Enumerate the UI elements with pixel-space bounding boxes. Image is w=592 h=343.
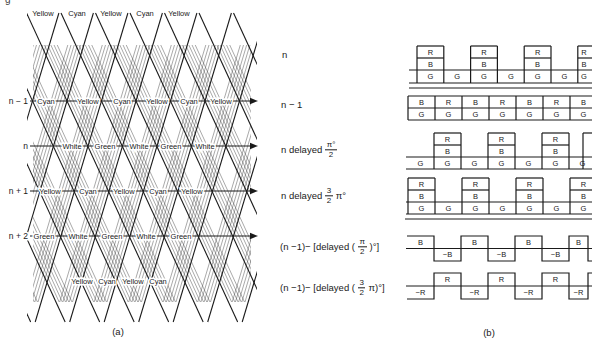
waveform-row: RBRBRBRBGGGGGGG	[409, 46, 592, 88]
svg-text:B: B	[419, 192, 424, 201]
svg-text:B: B	[419, 98, 424, 107]
svg-text:G: G	[553, 159, 559, 168]
svg-text:−R: −R	[416, 288, 426, 297]
svg-text:G: G	[473, 110, 479, 119]
svg-text:R: R	[581, 48, 587, 57]
svg-text:B: B	[553, 147, 558, 156]
signal-label-n-delayed-half-pi: n delayed π°2	[281, 140, 340, 159]
svg-text:G: G	[472, 159, 478, 168]
svg-text:Cyan: Cyan	[180, 97, 198, 106]
svg-text:R: R	[535, 48, 541, 57]
svg-text:B: B	[581, 60, 586, 69]
svg-text:G: G	[561, 72, 567, 81]
svg-text:Yellow: Yellow	[71, 277, 93, 286]
svg-text:R: R	[473, 180, 479, 189]
waveform-row: −RR−RR−RR−R	[406, 273, 592, 299]
svg-text:Yellow: Yellow	[210, 97, 232, 106]
svg-text:White: White	[129, 142, 148, 151]
lattice-lines	[0, 13, 376, 322]
svg-text:Green: Green	[34, 232, 55, 241]
cropped-text-fragment: g	[5, 0, 11, 5]
svg-text:G: G	[419, 110, 425, 119]
svg-text:n + 1: n + 1	[9, 186, 28, 196]
svg-text:G: G	[526, 159, 532, 168]
svg-text:R: R	[445, 275, 451, 284]
svg-text:B: B	[581, 98, 586, 107]
waveform-row: RBRBRBRBGGGGGGG	[405, 178, 592, 219]
svg-text:n: n	[23, 141, 28, 151]
svg-text:B: B	[472, 238, 477, 247]
svg-text:Yellow: Yellow	[113, 187, 135, 196]
svg-text:G: G	[419, 204, 425, 213]
svg-text:Yellow: Yellow	[122, 277, 144, 286]
svg-text:Yellow: Yellow	[100, 9, 122, 18]
svg-text:Yellow: Yellow	[181, 187, 203, 196]
waveform-diagram: RBRBRBRBGGGGGGGBRBRBRBGGGGGGGRBRBRBGGGGG…	[405, 46, 592, 299]
svg-text:G: G	[500, 204, 506, 213]
svg-text:G: G	[427, 72, 433, 81]
svg-text:B: B	[576, 238, 581, 247]
svg-text:B: B	[499, 147, 504, 156]
svg-text:Yellow: Yellow	[39, 187, 61, 196]
svg-text:R: R	[527, 180, 533, 189]
fraction: π°2	[325, 140, 337, 159]
svg-text:G: G	[499, 159, 505, 168]
svg-text:Green: Green	[161, 142, 182, 151]
waveform-row: BRBRBRBGGGGGGG	[408, 96, 592, 120]
svg-text:G: G	[418, 159, 424, 168]
svg-text:B: B	[473, 192, 478, 201]
svg-text:White: White	[62, 142, 81, 151]
caption-b: (b)	[483, 327, 495, 338]
fraction: 32	[325, 186, 332, 205]
svg-text:G: G	[473, 204, 479, 213]
svg-text:B: B	[527, 98, 532, 107]
svg-text:G: G	[481, 72, 487, 81]
svg-text:Cyan: Cyan	[136, 9, 154, 18]
svg-text:R: R	[445, 135, 451, 144]
svg-text:B: B	[535, 60, 540, 69]
svg-text:R: R	[553, 275, 559, 284]
svg-text:B: B	[526, 238, 531, 247]
svg-text:G: G	[581, 204, 587, 213]
svg-text:R: R	[499, 135, 505, 144]
svg-text:R: R	[554, 98, 560, 107]
svg-text:Yellow: Yellow	[77, 97, 99, 106]
svg-text:Cyan: Cyan	[37, 97, 55, 106]
svg-text:White: White	[136, 232, 155, 241]
svg-text:−B: −B	[497, 250, 506, 259]
svg-text:Cyan: Cyan	[68, 9, 86, 18]
svg-text:R: R	[553, 135, 559, 144]
svg-text:n − 1: n − 1	[9, 96, 28, 106]
svg-text:White: White	[68, 232, 87, 241]
signal-label-n: n	[282, 49, 287, 60]
line-number-labels: n − 1nn + 1n + 2	[9, 96, 28, 241]
svg-text:G: G	[535, 72, 541, 81]
svg-text:Cyan: Cyan	[79, 187, 97, 196]
fraction: π2	[358, 237, 367, 256]
svg-text:B: B	[481, 60, 486, 69]
signal-label-difference-half-pi: (n −1)− [delayed ( π2 )°]	[280, 237, 379, 256]
svg-text:G: G	[554, 110, 560, 119]
svg-text:G: G	[446, 204, 452, 213]
svg-text:White: White	[195, 142, 214, 151]
svg-text:B: B	[581, 192, 586, 201]
svg-text:Cyan: Cyan	[98, 277, 116, 286]
svg-text:R: R	[499, 275, 505, 284]
svg-text:R: R	[481, 48, 487, 57]
svg-text:B: B	[445, 147, 450, 156]
svg-text:G: G	[527, 110, 533, 119]
waveform-row: B−BB−BB−BB	[406, 236, 592, 261]
svg-text:B: B	[418, 238, 423, 247]
signal-label-difference-three-half-pi: (n −1)− [delayed ( 32 π)°]	[280, 278, 385, 297]
svg-text:R: R	[419, 180, 425, 189]
svg-text:−R: −R	[470, 288, 480, 297]
svg-text:−R: −R	[574, 288, 584, 297]
svg-text:R: R	[500, 98, 506, 107]
svg-text:G: G	[581, 72, 587, 81]
svg-text:G: G	[500, 110, 506, 119]
svg-text:G: G	[527, 204, 533, 213]
svg-text:R: R	[428, 48, 434, 57]
fraction: 32	[358, 278, 365, 297]
svg-text:−B: −B	[443, 250, 452, 259]
svg-text:Green: Green	[95, 142, 116, 151]
